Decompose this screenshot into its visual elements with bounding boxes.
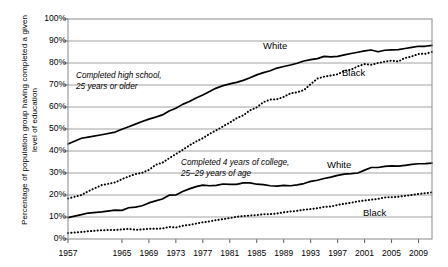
annotation-high-school: Completed high school, 25 years or older	[76, 71, 162, 92]
annotation-college-line1: Completed 4 years of college,	[181, 158, 289, 169]
y-tick-label: 100%	[32, 14, 66, 23]
y-tick-label: 70%	[32, 80, 66, 89]
y-tick-label: 30%	[32, 168, 66, 177]
y-tick-label: 80%	[32, 58, 66, 67]
y-tick-label: 40%	[32, 146, 66, 155]
x-axis-ticks	[68, 239, 419, 243]
series-label-college-black: Black	[363, 208, 386, 218]
annotation-high-school-line1: Completed high school,	[76, 71, 162, 82]
series-label-hs-black: Black	[342, 68, 365, 78]
y-axis-tick-labels: 0%10%20%30%40%50%60%70%80%90%100%	[28, 0, 66, 267]
y-tick-label: 90%	[32, 36, 66, 45]
series-label-hs-white: White	[263, 41, 287, 51]
annotation-college: Completed 4 years of college, 25–29 year…	[181, 158, 289, 179]
y-tick-label: 60%	[32, 102, 66, 111]
plot-area	[0, 0, 448, 267]
education-attainment-chart: Percentage of population group having co…	[0, 0, 448, 267]
y-tick-label: 20%	[32, 190, 66, 199]
y-tick-label: 0%	[32, 234, 66, 243]
x-tick-label: 2009	[402, 249, 436, 258]
series-label-college-white: White	[327, 160, 351, 170]
y-tick-label: 50%	[32, 124, 66, 133]
x-tick-label: 1957	[51, 249, 85, 258]
y-tick-label: 10%	[32, 212, 66, 221]
annotation-college-line2: 25–29 years of age	[181, 169, 289, 180]
annotation-high-school-line2: 25 years or older	[76, 82, 162, 93]
